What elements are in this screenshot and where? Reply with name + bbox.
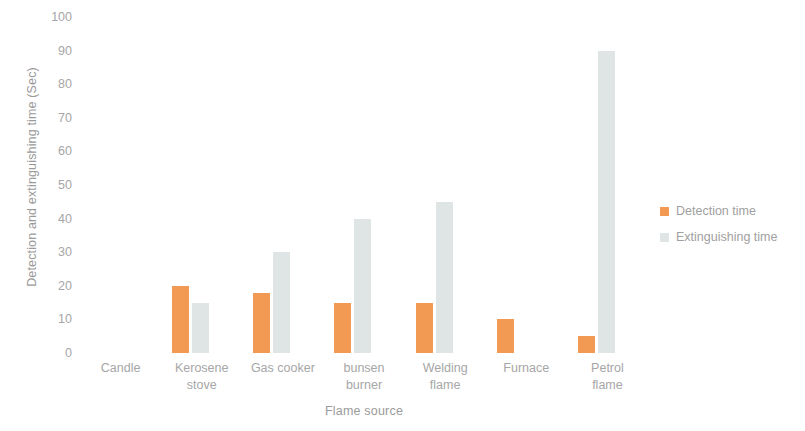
legend-item[interactable]: Detection time	[660, 198, 805, 224]
bar-extinguishing-time[interactable]	[436, 202, 453, 353]
y-axis-tick-label: 0	[32, 346, 72, 360]
bar-detection-time[interactable]	[172, 286, 189, 353]
bar-detection-time[interactable]	[578, 336, 595, 353]
square-swatch-icon	[660, 207, 669, 216]
chart-legend: Detection timeExtinguishing time	[660, 198, 805, 250]
y-axis-tick-label: 40	[32, 212, 72, 226]
y-axis-tick-label: 90	[32, 44, 72, 58]
x-axis-title: Flame source	[80, 404, 648, 418]
bar-extinguishing-time[interactable]	[598, 51, 615, 353]
legend-item-label: Detection time	[676, 204, 756, 218]
y-axis-tick-label: 50	[32, 178, 72, 192]
bar-group	[486, 17, 567, 353]
x-axis-tick-label-line: bunsen	[324, 360, 405, 377]
legend-item-label: Extinguishing time	[676, 230, 777, 244]
x-axis-tick-label-line: Petrol	[567, 360, 648, 377]
y-axis-tick-label: 30	[32, 245, 72, 259]
x-axis-tick-label-line: Kerosene	[161, 360, 242, 377]
bar-group	[323, 17, 404, 353]
x-axis-tick-labels: CandleKerosenestoveGas cookerbunsenburne…	[80, 360, 648, 406]
bar-chart: Detection and extinguishing time (Sec) 1…	[0, 0, 805, 431]
legend-item[interactable]: Extinguishing time	[660, 224, 805, 250]
x-axis-tick-label: Candle	[80, 360, 161, 377]
y-axis-tick-label: 80	[32, 77, 72, 91]
x-axis-tick-label: bunsenburner	[324, 360, 405, 394]
x-axis-tick-label-line: burner	[324, 377, 405, 394]
x-axis-tick-label-line: Furnace	[486, 360, 567, 377]
bar-extinguishing-time[interactable]	[273, 252, 290, 353]
y-axis-tick-label: 100	[32, 10, 72, 24]
y-axis-tick-labels: 1009080706050403020100	[24, 17, 72, 353]
x-axis-tick-label-line: flame	[405, 377, 486, 394]
bar-detection-time[interactable]	[253, 293, 270, 353]
y-axis-tick-label: 10	[32, 312, 72, 326]
x-axis-tick-label: Kerosenestove	[161, 360, 242, 394]
x-axis-tick-label: Furnace	[486, 360, 567, 377]
y-axis-tick-label: 20	[32, 279, 72, 293]
x-axis-tick-label: Weldingflame	[405, 360, 486, 394]
bar-group	[80, 17, 161, 353]
x-axis-tick-label-line: Gas cooker	[242, 360, 323, 377]
bar-detection-time[interactable]	[416, 303, 433, 353]
x-axis-tick-label-line: stove	[161, 377, 242, 394]
bar-detection-time[interactable]	[497, 319, 514, 353]
x-axis-tick-label: Petrolflame	[567, 360, 648, 394]
x-axis-tick-label: Gas cooker	[242, 360, 323, 377]
square-swatch-icon	[660, 233, 669, 242]
bar-group	[242, 17, 323, 353]
x-axis-tick-label-line: Candle	[80, 360, 161, 377]
plot-area	[80, 17, 648, 353]
bar-detection-time[interactable]	[334, 303, 351, 353]
y-axis-tick-label: 70	[32, 111, 72, 125]
bar-group	[161, 17, 242, 353]
x-axis-tick-label-line: flame	[567, 377, 648, 394]
x-axis-tick-label-line: Welding	[405, 360, 486, 377]
bar-extinguishing-time[interactable]	[354, 219, 371, 353]
bar-group	[567, 17, 648, 353]
bar-extinguishing-time[interactable]	[192, 303, 209, 353]
bar-group	[405, 17, 486, 353]
y-axis-tick-label: 60	[32, 144, 72, 158]
